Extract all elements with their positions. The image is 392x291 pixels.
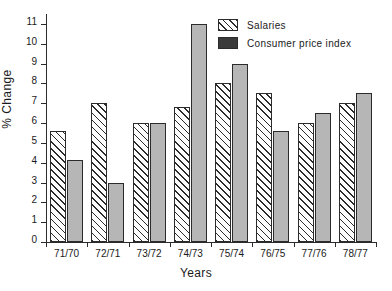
- y-axis-tick-label: 3: [7, 176, 37, 186]
- x-axis-tick-mark: [211, 242, 212, 247]
- y-axis-tick-label: 4: [7, 156, 37, 166]
- x-axis-tick-mark: [129, 242, 130, 247]
- bar-salaries: [174, 107, 190, 242]
- legend-item-salaries: Salaries: [218, 16, 351, 34]
- x-axis-tick-label: 77/76: [294, 248, 335, 259]
- bar-salaries: [339, 103, 355, 242]
- bar-consumer-price-index: [315, 113, 331, 242]
- bar-consumer-price-index: [232, 64, 248, 242]
- y-axis-tick-label: 0: [7, 235, 37, 245]
- x-axis-tick-label: 78/77: [335, 248, 376, 259]
- x-axis-tick-mark: [87, 242, 88, 247]
- x-axis-title: Years: [0, 266, 392, 280]
- x-axis-tick-label: 76/75: [252, 248, 293, 259]
- x-axis-tick-mark: [294, 242, 295, 247]
- x-axis-tick-label: 74/73: [170, 248, 211, 259]
- bar-group: [129, 14, 170, 242]
- x-axis-tick-label: 72/71: [87, 248, 128, 259]
- bar-consumer-price-index: [67, 160, 83, 242]
- bar-chart: 01234567891011 71/7072/7173/7274/7375/74…: [0, 0, 392, 291]
- x-axis-tick-mark: [252, 242, 253, 247]
- x-axis-tick-label: 71/70: [46, 248, 87, 259]
- y-axis-tick-label: 11: [7, 17, 37, 27]
- bar-salaries: [91, 103, 107, 242]
- bar-salaries: [215, 83, 231, 242]
- bar-consumer-price-index: [150, 123, 166, 242]
- bar-salaries: [133, 123, 149, 242]
- legend-label-consumer-price-index: Consumer price index: [247, 38, 351, 49]
- solid-swatch-icon: [218, 37, 238, 49]
- x-axis-tick-mark: [170, 242, 171, 247]
- bar-consumer-price-index: [273, 131, 289, 242]
- bar-salaries: [50, 131, 66, 242]
- x-axis-tick-label: 75/74: [211, 248, 252, 259]
- bar-group: [46, 14, 87, 242]
- bar-salaries: [298, 123, 314, 242]
- bar-salaries: [256, 93, 272, 242]
- bar-consumer-price-index: [108, 183, 124, 242]
- legend-item-consumer-price-index: Consumer price index: [218, 34, 351, 52]
- x-axis-tick-label: 73/72: [129, 248, 170, 259]
- bar-consumer-price-index: [191, 24, 207, 242]
- chart-legend: Salaries Consumer price index: [218, 16, 351, 52]
- bar-consumer-price-index: [356, 93, 372, 242]
- y-axis-title: % Change: [0, 44, 14, 154]
- hatched-swatch-icon: [218, 19, 238, 31]
- y-axis-tick-label: 1: [7, 215, 37, 225]
- x-axis-tick-mark: [46, 242, 47, 247]
- x-axis-tick-mark: [376, 242, 377, 247]
- legend-label-salaries: Salaries: [247, 20, 286, 31]
- bar-group: [170, 14, 211, 242]
- x-axis-tick-mark: [335, 242, 336, 247]
- y-axis-tick-label: 2: [7, 195, 37, 205]
- bar-group: [87, 14, 128, 242]
